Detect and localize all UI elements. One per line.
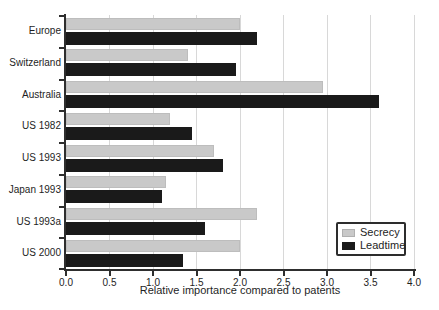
legend: Secrecy Leadtime [336,222,406,256]
category-label: Australia [0,89,61,101]
legend-label-secrecy: Secrecy [360,227,400,238]
gridline [414,15,415,269]
y-axis-tick [59,174,64,176]
y-axis-tick [59,15,64,17]
x-axis-tick [152,271,154,276]
x-axis-tick [109,271,111,276]
bar-secrecy [66,113,170,125]
bar-secrecy [66,145,214,157]
bar-secrecy [66,81,323,93]
legend-swatch-secrecy [342,229,355,237]
x-axis-tick [370,271,372,276]
chart: EuropeSwitzerlandAustraliaUS 1982US 1993… [0,0,439,310]
legend-item-leadtime: Leadtime [342,240,400,251]
bar-secrecy [66,208,257,220]
category-label: US 1993a [0,216,61,228]
bar-leadtime [66,190,162,203]
bar-leadtime [66,254,183,267]
y-axis-tick [59,47,64,49]
x-axis-tick [239,271,241,276]
bar-leadtime [66,63,236,76]
y-axis-tick [59,142,64,144]
y-axis-tick [59,237,64,239]
y-axis-tick [59,268,64,270]
bar-leadtime [66,222,205,235]
y-axis-tick [59,206,64,208]
category-label: US 1993 [0,152,61,164]
gridline [240,15,241,269]
x-axis-tick [326,271,328,276]
x-axis-tick [65,271,67,276]
y-axis-line [64,14,66,271]
bar-secrecy [66,49,188,61]
bar-secrecy [66,240,240,252]
gridline [327,15,328,269]
x-axis-tick [283,271,285,276]
bar-secrecy [66,176,166,188]
category-label: Japan 1993 [0,184,61,196]
bar-secrecy [66,18,240,30]
category-label: Switzerland [0,57,61,69]
y-axis-tick [59,79,64,81]
legend-swatch-leadtime [342,242,355,250]
bar-leadtime [66,127,192,140]
bar-leadtime [66,32,257,45]
category-label: Europe [0,25,61,37]
bar-leadtime [66,159,223,172]
x-axis-title: Relative importance compared to patents [66,284,414,297]
category-label: US 2000 [0,247,61,259]
bar-leadtime [66,95,379,108]
x-axis-tick [196,271,198,276]
legend-item-secrecy: Secrecy [342,227,400,238]
y-axis-tick [59,110,64,112]
category-label: US 1982 [0,120,61,132]
legend-label-leadtime: Leadtime [360,240,405,251]
gridline [283,15,284,269]
x-axis-tick [413,271,415,276]
